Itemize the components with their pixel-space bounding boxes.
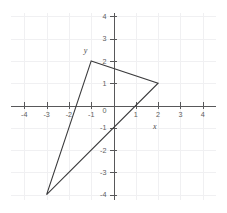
x-tick-label: -2	[66, 110, 72, 119]
x-tick-label: 2	[156, 110, 160, 119]
y-tick-label: -2	[100, 146, 106, 155]
x-axis-label: x	[152, 122, 157, 131]
x-tick-label: 3	[178, 110, 182, 119]
x-tick-label: 1	[134, 110, 138, 119]
y-axis-label: y	[83, 46, 88, 55]
x-tick-label: -4	[21, 110, 27, 119]
x-tick-label: -1	[88, 110, 94, 119]
axes-layer	[11, 13, 216, 200]
y-tick-label: -3	[100, 168, 106, 177]
x-tick-label: 4	[201, 110, 205, 119]
coordinate-plane-figure: -4-3-2-112344321-1-2-3-40 yx	[0, 0, 227, 213]
y-tick-label: 3	[103, 34, 107, 43]
y-tick-label: -1	[100, 123, 106, 132]
y-tick-label: 2	[103, 57, 107, 66]
y-tick-label: 4	[103, 12, 107, 21]
origin-label: 0	[103, 106, 107, 115]
x-tick-label: -3	[43, 110, 49, 119]
y-tick-label: -4	[100, 190, 106, 199]
y-tick-label: 1	[103, 79, 107, 88]
coordinate-plane-svg: -4-3-2-112344321-1-2-3-40 yx	[0, 0, 227, 213]
